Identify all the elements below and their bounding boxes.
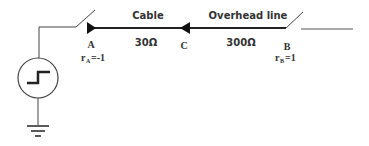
svg-text:B: B xyxy=(280,58,284,64)
svg-text:=1: =1 xyxy=(285,52,296,63)
node-c-label: C xyxy=(180,40,187,51)
ground-icon xyxy=(27,126,49,136)
step-source-branch xyxy=(18,27,76,136)
switch-left-icon xyxy=(76,10,95,27)
cable-impedance: 30Ω xyxy=(135,37,158,48)
node-b-label: B xyxy=(284,41,291,52)
step-waveform-icon xyxy=(27,72,50,83)
cable-label: Cable xyxy=(132,10,164,21)
arrow-left-icon xyxy=(180,22,190,34)
node-a-coefficient: r A =-1 xyxy=(81,52,105,64)
overhead-impedance: 300Ω xyxy=(226,37,256,48)
node-b-coefficient: r B =1 xyxy=(275,52,296,64)
overhead-label: Overhead line xyxy=(209,10,288,21)
arrow-right-icon xyxy=(87,22,96,34)
switch-right-icon xyxy=(285,12,303,29)
node-a-label: A xyxy=(87,39,95,50)
svg-text:=-1: =-1 xyxy=(91,52,105,63)
transmission-line-diagram: Cable 30Ω Overhead line 300Ω A r A =-1 C… xyxy=(0,0,369,146)
